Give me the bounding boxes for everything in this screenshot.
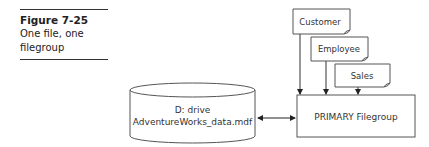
- table-sales-label: Sales: [351, 71, 374, 81]
- table-customer-label: Customer: [299, 17, 341, 27]
- disk-file-label: AdventureWorks_data.mdf: [133, 117, 253, 127]
- table-sales: Sales: [335, 64, 390, 87]
- table-employee-label: Employee: [318, 44, 360, 54]
- filegroup-label: PRIMARY Filegroup: [314, 112, 398, 122]
- primary-filegroup-box: PRIMARY Filegroup: [297, 95, 415, 137]
- disk-drive-label: D: drive: [175, 105, 211, 115]
- table-customer: Customer: [293, 9, 350, 34]
- diagram-canvas: D: drive AdventureWorks_data.mdf PRIMARY…: [0, 0, 429, 147]
- table-employee: Employee: [311, 37, 368, 61]
- disk-cylinder: D: drive AdventureWorks_data.mdf: [130, 83, 255, 143]
